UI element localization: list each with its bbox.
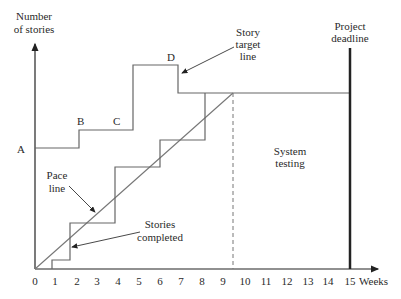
burndown-diagram: Number of stories A B C D Story target l… xyxy=(0,0,401,299)
point-label-a: A xyxy=(17,143,25,155)
stories-completed-label-2: completed xyxy=(137,231,183,243)
x-tick-6: 6 xyxy=(157,275,163,287)
project-deadline-label-2: deadline xyxy=(331,32,368,44)
point-label-b: B xyxy=(77,115,84,127)
x-tick-3: 3 xyxy=(94,275,100,287)
story-target-label-3: line xyxy=(240,50,257,62)
story-target-arrow xyxy=(182,47,234,73)
x-tick-1: 1 xyxy=(52,275,58,287)
x-tick-8: 8 xyxy=(199,275,205,287)
x-tick-5: 5 xyxy=(136,275,142,287)
story-target-label-1: Story xyxy=(236,26,260,38)
y-axis-label-line2: of stories xyxy=(14,23,55,35)
pace-line-label-1: Pace xyxy=(47,169,68,181)
x-tick-2: 2 xyxy=(74,275,80,287)
x-tick-0: 0 xyxy=(32,275,38,287)
story-target-label-2: target xyxy=(236,38,261,50)
project-deadline-label-1: Project xyxy=(334,20,365,32)
x-tick-4: 4 xyxy=(115,275,121,287)
pace-line xyxy=(35,93,233,269)
x-tick-10: 10 xyxy=(240,275,252,287)
stories-completed-arrow xyxy=(72,232,140,247)
x-axis-label: Weeks xyxy=(359,275,388,287)
pace-line-arrow xyxy=(69,186,95,212)
system-testing-label-1: System xyxy=(274,145,307,157)
x-tick-15: 15 xyxy=(345,275,357,287)
story-target-line xyxy=(35,65,350,148)
stories-completed-label-1: Stories xyxy=(145,218,176,230)
x-tick-9: 9 xyxy=(220,275,226,287)
x-tick-7: 7 xyxy=(178,275,184,287)
x-axis-ticks: 0 1 2 3 4 5 6 7 8 9 10 11 12 13 14 15 xyxy=(32,275,356,287)
y-axis-label-line1: Number xyxy=(16,10,52,22)
x-tick-11: 11 xyxy=(261,275,272,287)
x-tick-12: 12 xyxy=(282,275,293,287)
x-tick-13: 13 xyxy=(303,275,315,287)
x-tick-14: 14 xyxy=(323,275,335,287)
point-label-d: D xyxy=(167,51,175,63)
point-label-c: C xyxy=(113,115,120,127)
pace-line-label-2: line xyxy=(49,182,66,194)
system-testing-label-2: testing xyxy=(275,157,305,169)
